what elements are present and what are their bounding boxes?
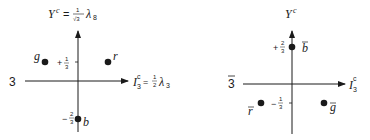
- svg-text:3: 3: [137, 83, 141, 90]
- svg-text:3: 3: [166, 82, 170, 89]
- svg-text:2: 2: [70, 111, 74, 117]
- svg-text:Y: Y: [48, 7, 56, 21]
- x-axis-title: I c 3 = 1 2 λ 3: [132, 73, 170, 90]
- svg-text:3: 3: [353, 86, 357, 93]
- svg-text:8: 8: [93, 14, 97, 21]
- svg-text:2: 2: [153, 82, 157, 88]
- tick-minus-two-thirds: − 2 3: [62, 111, 74, 125]
- svg-text:=: =: [63, 8, 69, 20]
- svg-text:1: 1: [153, 74, 157, 80]
- svg-text:1: 1: [279, 96, 283, 102]
- svg-text:c: c: [137, 73, 141, 80]
- antitriplet-diagram: Y c 3 I c 3 + 2 3 − 1 3 b: [228, 6, 357, 134]
- svg-text:b: b: [83, 115, 89, 129]
- svg-text:+: +: [57, 58, 62, 68]
- svg-text:3: 3: [281, 48, 285, 54]
- svg-text:g: g: [34, 49, 40, 63]
- svg-text:b: b: [302, 41, 308, 55]
- point-r-bar: r: [248, 100, 264, 118]
- svg-text:=: =: [143, 77, 148, 87]
- rep-label-3-bar: 3: [228, 76, 235, 91]
- svg-text:c: c: [353, 75, 357, 82]
- svg-text:Y: Y: [285, 7, 293, 21]
- svg-text:√3: √3: [73, 16, 80, 22]
- point-g-bar: g: [321, 100, 336, 114]
- svg-text:1: 1: [65, 56, 69, 62]
- svg-text:λ: λ: [85, 7, 91, 21]
- svg-text:2: 2: [281, 40, 285, 46]
- triplet-diagram: Y c = 1 √3 λ 8 3 I c 3 = 1 2 λ 3: [9, 6, 170, 132]
- svg-text:3: 3: [279, 104, 283, 110]
- svg-text:−: −: [62, 114, 67, 124]
- x-axis-title: I c 3: [348, 75, 357, 93]
- y-axis-title: Y c: [285, 6, 297, 21]
- svg-text:c: c: [293, 6, 297, 15]
- tick-plus-one-third: + 1 3: [57, 56, 69, 70]
- svg-text:−: −: [271, 99, 276, 109]
- svg-text:g: g: [330, 100, 336, 114]
- tick-minus-one-third: − 1 3: [271, 96, 283, 110]
- tick-plus-two-thirds: + 2 3: [273, 40, 285, 54]
- svg-text:r: r: [113, 49, 118, 63]
- point-b: b: [75, 115, 89, 129]
- point-r: r: [105, 49, 118, 65]
- svg-text:1: 1: [76, 7, 80, 13]
- svg-text:3: 3: [70, 119, 74, 125]
- rep-label-3: 3: [9, 75, 16, 89]
- y-axis-title: Y c = 1 √3 λ 8: [48, 6, 97, 22]
- svg-text:3: 3: [65, 64, 69, 70]
- point-g: g: [34, 49, 48, 65]
- svg-text:c: c: [56, 6, 60, 15]
- svg-text:λ: λ: [158, 75, 164, 89]
- svg-text:+: +: [273, 43, 278, 53]
- color-weight-diagrams: Y c = 1 √3 λ 8 3 I c 3 = 1 2 λ 3: [0, 0, 370, 140]
- svg-text:r: r: [248, 104, 253, 118]
- svg-text:3: 3: [228, 77, 235, 91]
